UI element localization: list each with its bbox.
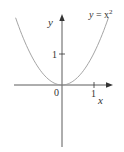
y-axis-label: y bbox=[47, 16, 53, 28]
parabola-diagram: x y 0 1 1 y = x2 bbox=[0, 0, 124, 152]
x-axis-arrow-icon bbox=[106, 82, 113, 87]
x-tick-label-1: 1 bbox=[91, 88, 96, 99]
y-tick-label-1: 1 bbox=[52, 49, 57, 60]
x-axis-label: x bbox=[97, 94, 103, 106]
curve-equation-label: y = x2 bbox=[88, 8, 113, 20]
y-axis-arrow-icon bbox=[59, 14, 64, 21]
origin-label: 0 bbox=[54, 87, 59, 98]
